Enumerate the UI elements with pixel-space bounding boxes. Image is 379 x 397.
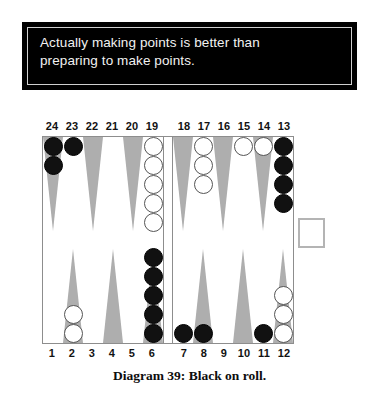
point-number-14: 14 [254,120,274,132]
point-number-4: 4 [102,347,122,359]
board-point-13[interactable] [273,137,293,240]
black-checker[interactable] [144,248,163,267]
board-point-1[interactable] [43,240,63,343]
board-point-2[interactable] [63,240,83,343]
point-numbers-bottom-right: 7 8 9 10 11 12 [174,347,294,359]
point-number-9: 9 [214,347,234,359]
black-checker[interactable] [194,324,213,343]
checker-stack-12[interactable] [273,286,293,343]
white-checker[interactable] [144,137,163,156]
white-checker[interactable] [64,305,83,324]
doubling-cube[interactable] [298,218,325,248]
point-triangle-5 [123,249,143,343]
board-point-22[interactable] [83,137,103,240]
white-checker[interactable] [64,324,83,343]
checker-stack-13[interactable] [273,137,293,213]
point-number-24: 24 [42,120,62,132]
board-point-5[interactable] [123,240,143,343]
black-checker[interactable] [174,324,193,343]
white-checker[interactable] [194,175,213,194]
white-checker[interactable] [194,137,213,156]
black-checker[interactable] [144,324,163,343]
black-checker[interactable] [64,137,83,156]
backgammon-diagram: 24 23 22 21 20 19 18 17 16 15 14 13 [0,112,379,397]
point-triangle-22 [83,137,103,231]
board-point-12[interactable] [273,240,293,343]
white-checker[interactable] [234,137,253,156]
board-point-16[interactable] [213,137,233,240]
checker-stack-6[interactable] [143,248,163,343]
quadrant-bottom-right [173,240,293,343]
white-checker[interactable] [144,194,163,213]
checker-stack-15[interactable] [233,137,253,156]
checker-stack-17[interactable] [193,137,213,194]
board-point-20[interactable] [123,137,143,240]
point-triangle-18 [173,137,193,231]
black-checker[interactable] [44,156,63,175]
black-checker[interactable] [274,194,293,213]
black-checker[interactable] [274,137,293,156]
point-number-17: 17 [194,120,214,132]
point-number-16: 16 [214,120,234,132]
point-number-23: 23 [62,120,82,132]
board-point-17[interactable] [193,137,213,240]
checker-stack-19[interactable] [143,137,163,232]
board-half-right [173,137,293,343]
white-checker[interactable] [144,156,163,175]
board-point-6[interactable] [143,240,163,343]
board-point-18[interactable] [173,137,193,240]
checker-stack-24[interactable] [43,137,63,175]
point-triangle-4 [103,249,123,343]
board-point-7[interactable] [173,240,193,343]
point-number-21: 21 [102,120,122,132]
checker-stack-11[interactable] [253,324,273,343]
point-numbers-top-left: 24 23 22 21 20 19 [42,120,162,132]
board-bar[interactable] [163,137,173,343]
board-point-8[interactable] [193,240,213,343]
quote-banner-inner-border: Actually making points is better than pr… [27,27,352,85]
white-checker[interactable] [274,324,293,343]
board-point-24[interactable] [43,137,63,240]
board-point-23[interactable] [63,137,83,240]
black-checker[interactable] [254,324,273,343]
point-triangle-21 [103,137,123,231]
point-number-6: 6 [142,347,162,359]
board-point-3[interactable] [83,240,103,343]
point-number-5: 5 [122,347,142,359]
black-checker[interactable] [144,267,163,286]
checker-stack-14[interactable] [253,137,273,156]
black-checker[interactable] [274,175,293,194]
board-point-19[interactable] [143,137,163,240]
black-checker[interactable] [144,286,163,305]
board-point-4[interactable] [103,240,123,343]
black-checker[interactable] [44,137,63,156]
checker-stack-7[interactable] [173,324,193,343]
point-number-20: 20 [122,120,142,132]
board-point-10[interactable] [233,240,253,343]
point-numbers-top: 24 23 22 21 20 19 18 17 16 15 14 13 [42,120,294,132]
board-point-15[interactable] [233,137,253,240]
bar-gap-top [162,120,174,132]
black-checker[interactable] [144,305,163,324]
white-checker[interactable] [274,305,293,324]
checker-stack-2[interactable] [63,305,83,343]
checker-stack-23[interactable] [63,137,83,156]
white-checker[interactable] [254,137,273,156]
point-number-12: 12 [274,347,294,359]
point-number-7: 7 [174,347,194,359]
white-checker[interactable] [274,286,293,305]
white-checker[interactable] [144,213,163,232]
white-checker[interactable] [194,156,213,175]
black-checker[interactable] [274,156,293,175]
checker-stack-8[interactable] [193,324,213,343]
point-triangle-10 [233,249,253,343]
white-checker[interactable] [144,175,163,194]
board-point-11[interactable] [253,240,273,343]
board-point-21[interactable] [103,137,123,240]
quote-text: Actually making points is better than pr… [40,34,343,70]
point-number-13: 13 [274,120,294,132]
board-point-14[interactable] [253,137,273,240]
point-number-2: 2 [62,347,82,359]
board-point-9[interactable] [213,240,233,343]
point-triangle-3 [83,249,103,343]
